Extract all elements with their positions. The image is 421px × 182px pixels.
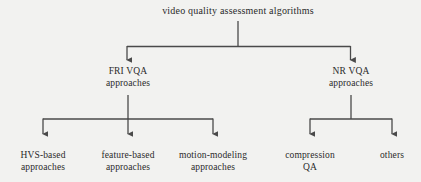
node-root-video-quality-assessment-algorithms: video quality assessment algorithms <box>108 5 368 17</box>
node-nr-vqa-approaches: NR VQA approaches <box>296 66 406 89</box>
node-motion-modeling-approaches: motion-modeling approaches <box>165 150 261 173</box>
node-hvs-based-approaches: HVS-based approaches <box>0 150 87 173</box>
node-compression-qa: compression QA <box>267 150 353 173</box>
node-fri-vqa-approaches: FRI VQA approaches <box>73 66 183 89</box>
node-feature-based-approaches: feature-based approaches <box>84 150 172 173</box>
node-others: others <box>362 150 421 162</box>
tree-diagram: video quality assessment algorithms FRI … <box>0 0 421 182</box>
